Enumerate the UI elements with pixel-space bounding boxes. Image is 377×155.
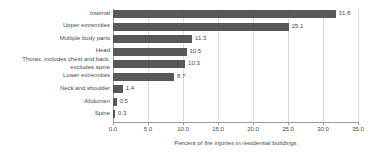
tick-mark (323, 122, 324, 125)
bar-row: 10.3 (113, 60, 358, 68)
category-label: Thorax, includes chest and back,excludes… (2, 56, 110, 71)
category-label-line: Internal (2, 10, 110, 18)
category-label: Upper extremities (2, 22, 110, 30)
bar (113, 10, 336, 18)
category-label: Spine (2, 110, 110, 118)
bar-row: 11.3 (113, 35, 358, 43)
category-label-line: Lower extremities (2, 72, 110, 80)
category-label-line: Head (2, 47, 110, 55)
category-label: Head (2, 47, 110, 55)
bar (113, 35, 192, 43)
bar-value-label: 10.3 (188, 58, 200, 69)
category-label: Multiple body parts (2, 35, 110, 43)
tick-mark (218, 122, 219, 125)
bar-chart: 31.825.111.310.510.38.71.40.50.3 0.05.01… (0, 0, 377, 155)
bar-value-label: 0.5 (120, 96, 128, 107)
tick-label: 15.0 (203, 126, 233, 132)
tick-label: 25.0 (273, 126, 303, 132)
tick-label: 20.0 (238, 126, 268, 132)
bar-value-label: 31.8 (339, 8, 351, 19)
tick-mark (288, 122, 289, 125)
bar-value-label: 11.3 (195, 33, 206, 44)
tick-label: 10.0 (168, 126, 198, 132)
category-label-line: Multiple body parts (2, 35, 110, 43)
bar-row: 0.5 (113, 98, 358, 106)
bar (113, 73, 174, 81)
bar (113, 110, 115, 118)
gridline (358, 9, 359, 122)
bar (113, 98, 117, 106)
category-label-line: Neck and shoulder (2, 85, 110, 93)
bar-value-label: 1.4 (126, 83, 134, 94)
tick-label: 30.0 (308, 126, 338, 132)
bar-value-label: 8.7 (177, 71, 185, 82)
bar-row: 8.7 (113, 73, 358, 81)
tick-mark (358, 122, 359, 125)
bar-row: 25.1 (113, 23, 358, 31)
category-label-line: Abdomen (2, 98, 110, 106)
tick-mark (183, 122, 184, 125)
bar-row: 0.3 (113, 110, 358, 118)
category-label-line: Thorax, includes chest and back, (2, 56, 110, 64)
bar-value-label: 10.5 (190, 46, 202, 57)
category-label: Neck and shoulder (2, 85, 110, 93)
category-label: Abdomen (2, 98, 110, 106)
x-axis-title: Percent of fire injuries in residential … (113, 139, 358, 146)
category-label: Lower extremities (2, 72, 110, 80)
bar-row: 1.4 (113, 85, 358, 93)
tick-label: 0.0 (98, 126, 128, 132)
bar-row: 31.8 (113, 10, 358, 18)
bar-value-label: 25.1 (292, 21, 304, 32)
plot-area: 31.825.111.310.510.38.71.40.50.3 (113, 9, 358, 122)
bar (113, 48, 187, 56)
category-label-line: excludes spine (2, 64, 110, 72)
bar-row: 10.5 (113, 48, 358, 56)
bar (113, 85, 123, 93)
category-label-line: Spine (2, 110, 110, 118)
bar (113, 60, 185, 68)
tick-mark (148, 122, 149, 125)
bar (113, 23, 289, 31)
category-label-line: Upper extremities (2, 22, 110, 30)
tick-mark (253, 122, 254, 125)
tick-label: 5.0 (133, 126, 163, 132)
tick-label: 35.0 (343, 126, 373, 132)
tick-mark (113, 122, 114, 125)
category-label: Internal (2, 10, 110, 18)
bar-value-label: 0.3 (118, 108, 126, 119)
